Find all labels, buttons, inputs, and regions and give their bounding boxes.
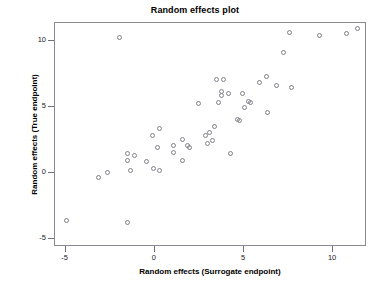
x-axis-label: Random effects (Surrogate endpoint) (54, 267, 366, 276)
x-axis-tick (243, 246, 244, 252)
x-axis-tick (65, 246, 66, 252)
y-axis-tick (48, 40, 54, 41)
chart-title: Random effects plot (0, 5, 390, 15)
x-axis-tick (332, 246, 333, 252)
plot-area-frame (54, 22, 366, 246)
y-axis-tick-label: 5 (6, 102, 46, 110)
y-axis-tick (48, 172, 54, 173)
y-axis-label: Random effects (True endpoint) (30, 23, 39, 247)
x-axis-tick-label: -5 (45, 254, 85, 262)
x-axis-tick (154, 246, 155, 252)
y-axis-tick-label: 0 (6, 168, 46, 176)
x-axis-tick-label: 5 (223, 254, 263, 262)
x-axis-tick-label: 0 (134, 254, 174, 262)
y-axis-tick-label: 10 (6, 36, 46, 44)
y-axis-tick-label: -5 (6, 234, 46, 242)
scatter-plot-figure: Random effects plot -50510-50510 Random … (0, 0, 390, 287)
x-axis-tick-label: 10 (312, 254, 352, 262)
y-axis-tick (48, 106, 54, 107)
y-axis-tick (48, 238, 54, 239)
